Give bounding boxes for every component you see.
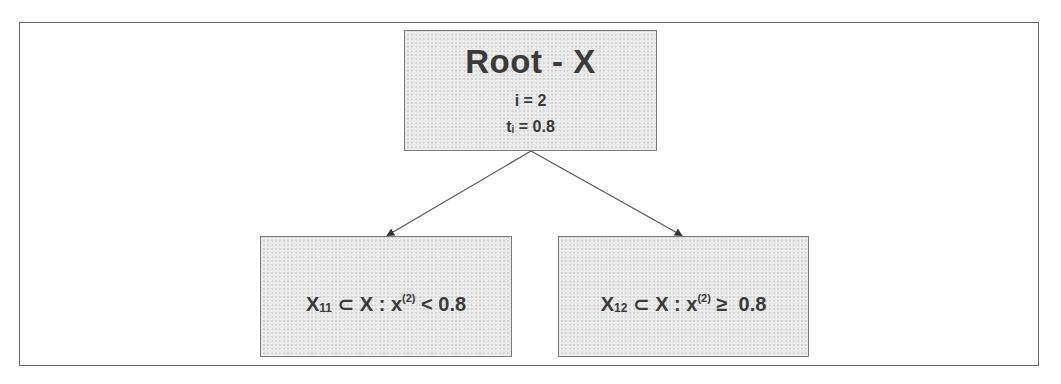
- condition-text: ≥ 0.8: [711, 293, 766, 315]
- threshold-value: = 0.8: [514, 118, 554, 135]
- feature-superscript: (2): [697, 292, 710, 304]
- right-child-node: X12 ⊂ X : x(2) ≥ 0.8: [558, 236, 809, 357]
- root-split-feature: i = 2: [405, 91, 656, 111]
- left-child-condition: X11 ⊂ X : x(2) < 0.8: [261, 285, 511, 321]
- root-node: Root - X i = 2 ti = 0.8: [404, 30, 657, 151]
- condition-text: < 0.8: [415, 293, 466, 315]
- root-threshold: ti = 0.8: [405, 117, 656, 140]
- feature-superscript: (2): [402, 292, 415, 304]
- relation-prefix: ⊂ X : x: [627, 293, 697, 315]
- left-child-node: X11 ⊂ X : x(2) < 0.8: [260, 236, 512, 357]
- right-child-condition: X12 ⊂ X : x(2) ≥ 0.8: [559, 285, 808, 321]
- set-subscript: 11: [319, 301, 332, 315]
- set-symbol: X: [306, 293, 319, 315]
- set-subscript: 12: [614, 301, 627, 315]
- set-symbol: X: [601, 293, 614, 315]
- relation-prefix: ⊂ X : x: [332, 293, 402, 315]
- root-title: Root - X: [405, 43, 656, 81]
